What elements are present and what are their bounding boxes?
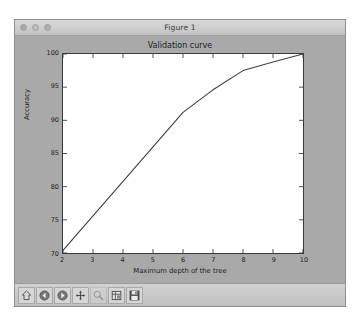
y-axis-label: Accuracy bbox=[23, 89, 31, 120]
validation-curve-plot bbox=[63, 54, 303, 253]
x-tick-label: 6 bbox=[176, 257, 190, 264]
navigation-toolbar bbox=[15, 283, 345, 306]
home-button[interactable] bbox=[18, 287, 35, 304]
zoom-rect-button[interactable] bbox=[90, 287, 107, 304]
figure-canvas[interactable]: Validation curve Accuracy Maximum depth … bbox=[15, 36, 345, 283]
move-cross-icon bbox=[75, 290, 86, 301]
plot-area[interactable] bbox=[62, 53, 304, 254]
save-figure-button[interactable] bbox=[126, 287, 143, 304]
chart-title: Validation curve bbox=[15, 41, 345, 50]
validation-curve-line bbox=[63, 54, 303, 250]
x-tick-label: 2 bbox=[55, 257, 69, 264]
x-tick-label: 8 bbox=[237, 257, 251, 264]
pan-button[interactable] bbox=[72, 287, 89, 304]
back-arrow-icon bbox=[39, 290, 50, 301]
sliders-icon bbox=[111, 290, 122, 301]
x-tick-label: 7 bbox=[206, 257, 220, 264]
x-tick-label: 5 bbox=[146, 257, 160, 264]
window-title: Figure 1 bbox=[15, 20, 345, 35]
x-tick-label: 4 bbox=[116, 257, 130, 264]
screen: Figure 1 Validation curve Accuracy Maxim… bbox=[0, 0, 360, 320]
axis-ticks bbox=[63, 54, 303, 253]
figure-window: Figure 1 Validation curve Accuracy Maxim… bbox=[14, 19, 346, 307]
window-titlebar[interactable]: Figure 1 bbox=[15, 20, 345, 36]
forward-button[interactable] bbox=[54, 287, 71, 304]
x-tick-label: 10 bbox=[297, 257, 311, 264]
home-icon bbox=[21, 290, 32, 301]
y-tick-label: 75 bbox=[37, 217, 59, 224]
magnifier-icon bbox=[93, 290, 104, 301]
floppy-disk-icon bbox=[129, 290, 140, 301]
forward-arrow-icon bbox=[57, 290, 68, 301]
y-tick-label: 80 bbox=[37, 184, 59, 191]
configure-subplots-button[interactable] bbox=[108, 287, 125, 304]
y-tick-label: 95 bbox=[37, 83, 59, 90]
x-tick-label: 9 bbox=[267, 257, 281, 264]
y-tick-label: 90 bbox=[37, 117, 59, 124]
y-tick-label: 100 bbox=[37, 50, 59, 57]
x-tick-label: 3 bbox=[85, 257, 99, 264]
back-button[interactable] bbox=[36, 287, 53, 304]
y-tick-label: 85 bbox=[37, 150, 59, 157]
x-axis-label: Maximum depth of the tree bbox=[15, 267, 345, 275]
